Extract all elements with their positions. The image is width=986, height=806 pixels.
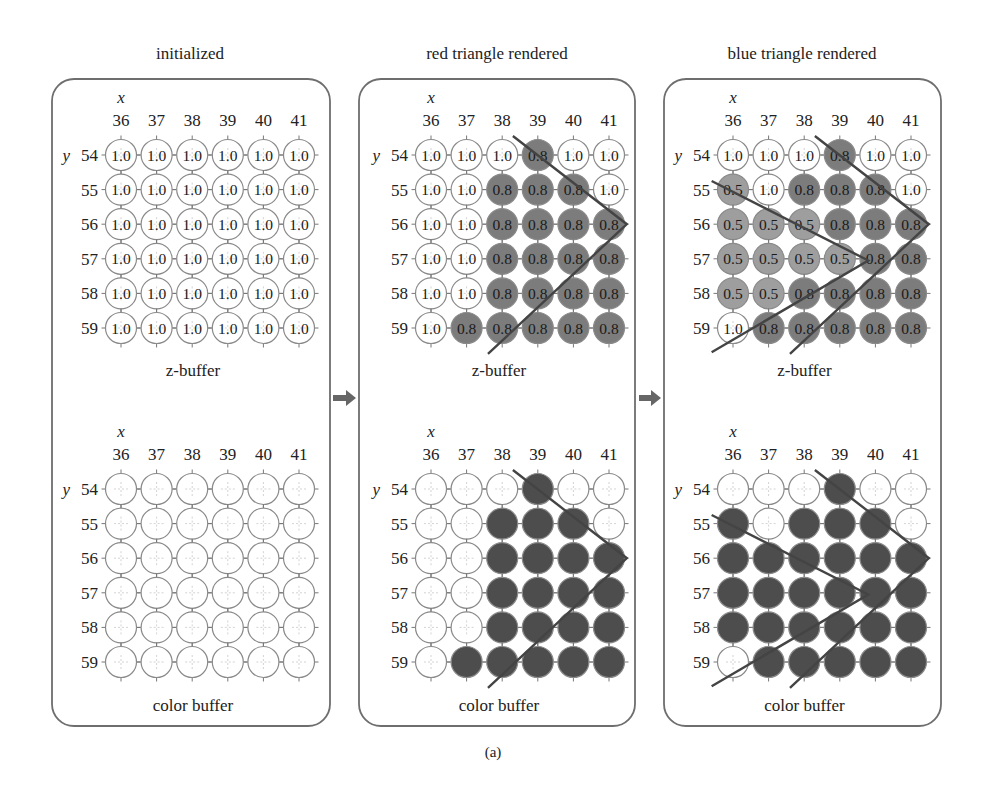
color-cell bbox=[749, 573, 788, 612]
depth-value: 1.0 bbox=[111, 285, 131, 302]
depth-value: 0.5 bbox=[723, 216, 743, 233]
y-tick-label: 54 bbox=[391, 480, 409, 499]
depth-cell: 1.0 bbox=[208, 170, 247, 209]
y-tick-label: 54 bbox=[81, 480, 99, 499]
depth-cell: 1.0 bbox=[137, 170, 176, 209]
depth-value: 1.0 bbox=[457, 250, 477, 267]
pixel-circle bbox=[860, 474, 891, 505]
depth-cell: 0.8 bbox=[856, 274, 895, 313]
depth-value: 1.0 bbox=[254, 181, 274, 198]
y-tick-label: 56 bbox=[391, 215, 408, 234]
color-cell bbox=[856, 539, 895, 578]
pixel-circle bbox=[753, 508, 784, 539]
color-cell bbox=[554, 470, 593, 509]
pixel-circle bbox=[416, 647, 447, 678]
depth-cell: 1.0 bbox=[208, 136, 247, 175]
y-tick-label: 57 bbox=[391, 250, 409, 269]
pixel-circle bbox=[106, 474, 137, 505]
pixel-circle bbox=[594, 543, 625, 574]
depth-cell: 0.8 bbox=[447, 309, 486, 348]
pixel-circle bbox=[789, 474, 820, 505]
y-tick-label: 55 bbox=[391, 181, 408, 200]
depth-value: 0.8 bbox=[901, 285, 921, 302]
pixel-circle bbox=[522, 508, 553, 539]
pixel-circle bbox=[106, 612, 137, 643]
color-cell bbox=[102, 573, 141, 612]
color-cell bbox=[554, 643, 593, 682]
depth-value: 1.0 bbox=[218, 285, 238, 302]
y-tick-label: 57 bbox=[693, 250, 711, 269]
depth-cell: 0.8 bbox=[554, 274, 593, 313]
color-cell bbox=[412, 470, 451, 509]
x-tick-label: 36 bbox=[423, 111, 440, 130]
color-cell bbox=[749, 470, 788, 509]
depth-value: 1.0 bbox=[289, 147, 309, 164]
depth-value: 1.0 bbox=[421, 147, 441, 164]
depth-value: 0.8 bbox=[599, 216, 619, 233]
pixel-circle bbox=[141, 612, 172, 643]
x-tick-label: 36 bbox=[113, 445, 130, 464]
z-buffer-label: z-buffer bbox=[777, 361, 832, 380]
y-tick-label: 54 bbox=[81, 146, 99, 165]
color-cell bbox=[590, 470, 629, 509]
x-tick-label: 39 bbox=[219, 111, 236, 130]
depth-value: 1.0 bbox=[218, 250, 238, 267]
color-cell bbox=[412, 573, 451, 612]
depth-cell: 1.0 bbox=[102, 205, 141, 244]
pixel-circle bbox=[789, 543, 820, 574]
color-cell bbox=[554, 539, 593, 578]
depth-cell: 1.0 bbox=[412, 274, 451, 313]
depth-value: 1.0 bbox=[147, 216, 167, 233]
depth-value: 1.0 bbox=[147, 285, 167, 302]
depth-value: 1.0 bbox=[254, 216, 274, 233]
depth-cell: 1.0 bbox=[102, 170, 141, 209]
depth-value: 0.8 bbox=[493, 181, 513, 198]
color-cell bbox=[856, 573, 895, 612]
color-cell bbox=[173, 643, 212, 682]
depth-value: 0.5 bbox=[759, 216, 779, 233]
x-tick-label: 40 bbox=[867, 111, 884, 130]
pixel-circle bbox=[753, 647, 784, 678]
depth-value: 1.0 bbox=[759, 147, 779, 164]
y-tick-label: 55 bbox=[81, 515, 98, 534]
depth-cell: 1.0 bbox=[244, 205, 283, 244]
pixel-circle bbox=[824, 508, 855, 539]
depth-cell: 1.0 bbox=[102, 274, 141, 313]
color-cell bbox=[856, 608, 895, 647]
depth-value: 1.0 bbox=[254, 285, 274, 302]
depth-value: 0.8 bbox=[564, 216, 584, 233]
depth-cell: 1.0 bbox=[714, 309, 753, 348]
depth-value: 1.0 bbox=[183, 250, 203, 267]
color-cell bbox=[483, 573, 522, 612]
depth-cell: 1.0 bbox=[280, 136, 319, 175]
z-buffer-grid: x363738394041y5455565758591.01.01.00.81.… bbox=[672, 88, 930, 380]
depth-value: 1.0 bbox=[183, 181, 203, 198]
depth-value: 0.8 bbox=[493, 216, 513, 233]
depth-value: 0.8 bbox=[528, 181, 548, 198]
depth-cell: 1.0 bbox=[412, 309, 451, 348]
depth-value: 1.0 bbox=[289, 285, 309, 302]
depth-value: 0.8 bbox=[528, 320, 548, 337]
pixel-circle bbox=[718, 543, 749, 574]
depth-cell: 0.5 bbox=[714, 205, 753, 244]
y-tick-label: 57 bbox=[391, 584, 409, 603]
pixel-circle bbox=[451, 577, 482, 608]
pixel-circle bbox=[248, 612, 279, 643]
depth-cell: 1.0 bbox=[447, 170, 486, 209]
color-cell bbox=[102, 504, 141, 543]
pixel-circle bbox=[594, 647, 625, 678]
color-cell bbox=[554, 573, 593, 612]
pixel-circle bbox=[753, 612, 784, 643]
depth-cell: 0.8 bbox=[856, 205, 895, 244]
depth-value: 1.0 bbox=[421, 181, 441, 198]
depth-value: 1.0 bbox=[147, 147, 167, 164]
y-tick-label: 59 bbox=[391, 319, 408, 338]
pixel-circle bbox=[824, 543, 855, 574]
depth-cell: 1.0 bbox=[447, 274, 486, 313]
depth-cell: 1.0 bbox=[590, 136, 629, 175]
arrow-icon bbox=[639, 390, 661, 406]
depth-value: 0.5 bbox=[795, 250, 815, 267]
depth-cell: 1.0 bbox=[749, 136, 788, 175]
color-cell bbox=[244, 504, 283, 543]
arrow-icon bbox=[333, 390, 356, 406]
